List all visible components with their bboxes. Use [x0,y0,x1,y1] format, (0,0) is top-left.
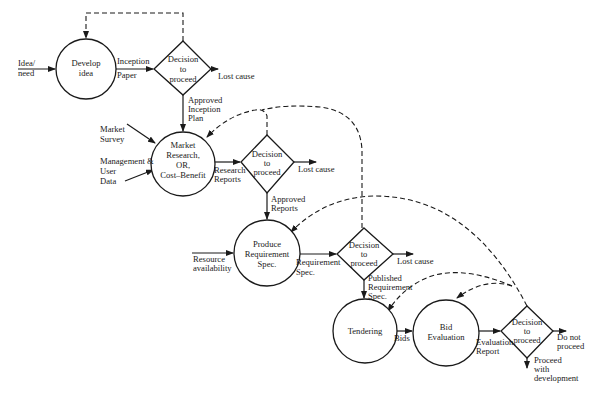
node-label: Spec. [258,259,277,269]
node-develop-idea: Develop idea [56,39,116,99]
svg-text:Inception: Inception [117,56,150,66]
label-inception-paper: Inception Paper [117,56,150,80]
svg-text:development: development [534,373,579,383]
svg-text:Plan: Plan [188,113,204,123]
svg-text:Lost cause: Lost cause [298,164,335,174]
label-management-user-data: Management & User Data [100,156,154,186]
node-label: to [180,64,187,74]
node-label: idea [79,68,93,78]
svg-text:Idea/: Idea/ [18,58,36,68]
label-approved-reports: Approved Reports [271,194,306,213]
svg-text:Lost cause: Lost cause [218,71,255,81]
node-label: proceed [350,258,378,268]
label-lost-cause-3: Lost cause [397,256,434,266]
node-bid-evaluation: Bid Evaluation [413,300,479,366]
node-label: proceed [169,74,197,84]
node-label: proceed [253,167,281,177]
node-label: Evaluation [427,332,465,342]
svg-text:Report: Report [476,346,500,356]
svg-text:Management &: Management & [100,156,154,166]
node-decision-2: Decision to proceed [241,135,294,193]
svg-text:Lost cause: Lost cause [397,256,434,266]
svg-text:Market: Market [100,124,125,134]
node-market-research: Market Research, OR, Cost–Benefit [151,132,215,196]
svg-text:Reports: Reports [271,203,298,213]
arrow-management-data [125,170,153,181]
svg-text:Spec.: Spec. [368,291,387,301]
label-research-reports: Research Reports [214,165,246,184]
label-resource-availability: Resource availability [193,254,232,273]
label-evaluation-report: Evaluation Report [476,337,514,356]
label-approved-inception-plan: Approved Inception Plan [188,95,223,123]
svg-text:Spec.: Spec. [296,267,315,277]
label-bids: Bids [394,333,410,343]
label-idea-need: Idea/ need [18,58,36,78]
node-label: OR, [176,160,190,170]
label-lost-cause-1: Lost cause [218,71,255,81]
node-label: proceed [513,335,541,345]
label-published-requirement-spec: Published Requirement Spec. [368,273,413,301]
node-label: Research, [166,150,200,160]
node-label: Produce [253,239,281,249]
node-label: Market [171,140,196,150]
svg-text:availability: availability [193,263,232,273]
node-decision-4: Decision to proceed [501,306,553,358]
feedback-decision4-to-bid [457,283,512,298]
label-do-not-proceed: Do not proceed [557,332,585,351]
node-decision-1: Decision to proceed [154,41,211,95]
svg-text:proceed: proceed [557,341,585,351]
svg-text:Paper: Paper [117,70,137,80]
node-label: Bid [440,322,453,332]
svg-text:Requirement: Requirement [296,257,341,267]
label-requirement-spec: Requirement Spec. [296,257,341,277]
label-market-survey: Market Survey [100,124,125,144]
svg-text:Survey: Survey [100,134,125,144]
node-label: Requirement [245,249,290,259]
feedback-decision1-to-develop [86,13,183,41]
node-label: Cost–Benefit [160,170,206,180]
svg-text:Reports: Reports [214,174,241,184]
node-label: Decision [168,54,199,64]
label-lost-cause-2: Lost cause [298,164,335,174]
project-decision-flow-diagram: Develop idea Market Research, OR, Cost–B… [0,0,598,397]
label-proceed-with-development: Proceed with development [534,355,579,383]
arrow-market-survey [127,124,155,143]
node-tendering: Tendering [333,299,397,363]
svg-text:User: User [100,166,116,176]
node-label: Develop [71,58,100,68]
svg-text:Data: Data [100,176,116,186]
node-label: Tendering [348,326,383,336]
svg-text:need: need [18,68,35,78]
svg-text:Bids: Bids [394,333,410,343]
node-produce-requirement-spec: Produce Requirement Spec. [234,220,300,286]
